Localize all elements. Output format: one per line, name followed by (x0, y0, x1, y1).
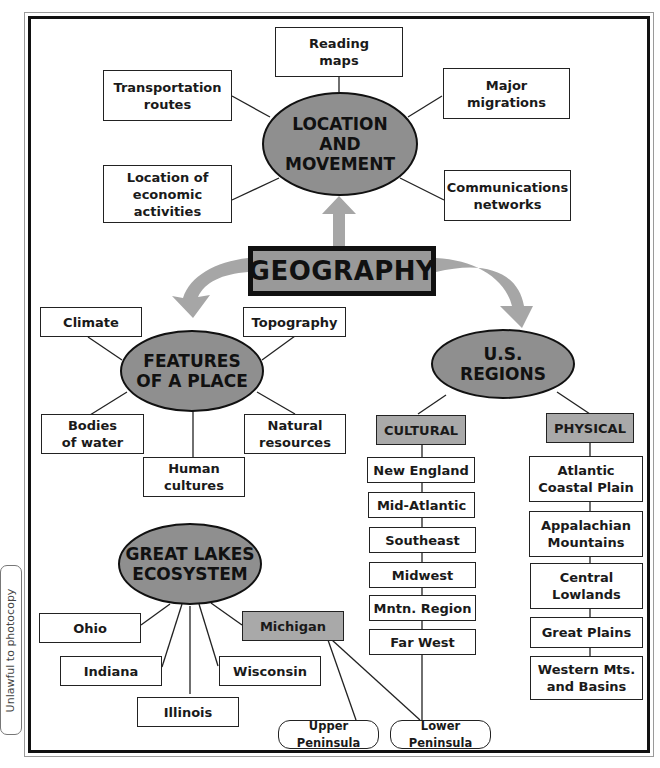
node-location-movement: LOCATION AND MOVEMENT (262, 92, 418, 196)
node-topography: Topography (243, 307, 346, 337)
node-great-plains: Great Plains (530, 617, 643, 648)
node-mntn-region: Mntn. Region (369, 595, 476, 621)
node-midwest: Midwest (369, 562, 476, 588)
node-natural-resources: Natural resources (244, 414, 346, 454)
node-wisconsin: Wisconsin (219, 656, 321, 686)
arrow-up-icon (322, 196, 356, 246)
node-ohio: Ohio (39, 613, 141, 643)
node-upper-peninsula: Upper Peninsula (278, 720, 379, 749)
node-human-cultures: Human cultures (143, 457, 245, 497)
node-far-west: Far West (369, 629, 476, 655)
arrow-curved-right-icon (436, 258, 533, 328)
node-geography: GEOGRAPHY (248, 246, 436, 296)
node-physical: PHYSICAL (546, 413, 634, 443)
node-atlantic-coastal-plain: Atlantic Coastal Plain (529, 456, 643, 502)
node-transportation-routes: Transportation routes (103, 70, 232, 121)
node-features-of-a-place: FEATURES OF A PLACE (120, 330, 264, 412)
node-economic-activities: Location of economic activities (103, 165, 232, 223)
node-indiana: Indiana (60, 656, 162, 686)
node-southeast: Southeast (369, 527, 476, 553)
node-cultural: CULTURAL (376, 415, 466, 445)
node-climate: Climate (40, 307, 142, 337)
node-bodies-of-water: Bodies of water (41, 414, 144, 454)
node-reading-maps: Reading maps (275, 27, 403, 77)
node-western-mts-basins: Western Mts. and Basins (530, 656, 643, 700)
node-mid-atlantic: Mid-Atlantic (368, 492, 475, 518)
node-communications-networks: Communications networks (444, 170, 571, 221)
node-appalachian-mountains: Appalachian Mountains (529, 511, 643, 557)
node-great-lakes-ecosystem: GREAT LAKES ECOSYSTEM (118, 523, 262, 605)
arrow-curved-left-icon (172, 258, 248, 318)
node-michigan: Michigan (242, 611, 344, 641)
node-us-regions: U.S. REGIONS (431, 329, 575, 399)
node-major-migrations: Major migrations (443, 68, 570, 119)
node-lower-peninsula: Lower Peninsula (390, 720, 491, 749)
node-illinois: Illinois (137, 697, 239, 727)
node-central-lowlands: Central Lowlands (530, 563, 643, 609)
node-new-england: New England (367, 457, 475, 483)
